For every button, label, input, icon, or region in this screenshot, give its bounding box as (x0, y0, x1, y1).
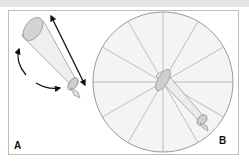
cone-tip (71, 88, 80, 98)
panel-label-b: B (219, 135, 226, 146)
panel-b (93, 12, 233, 152)
panel-label-a: A (14, 140, 21, 151)
rotation-arrow-right-icon (36, 83, 60, 88)
diagram-canvas (0, 0, 249, 162)
panel-a (18, 14, 85, 98)
rotation-arrow-up-icon (18, 49, 26, 75)
